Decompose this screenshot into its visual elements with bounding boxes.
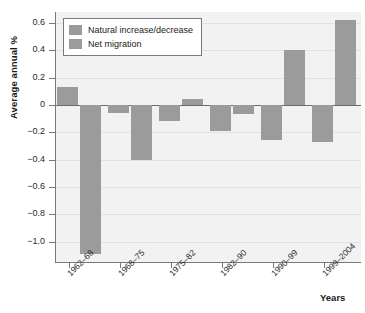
gridline [56,214,361,215]
bar [131,105,152,160]
gridline [56,242,361,243]
legend-swatch-migration [69,39,82,49]
bar [80,105,101,254]
bar [284,50,305,105]
gridline [56,160,361,161]
bar [210,105,231,131]
y-tick-label: −0.6 [27,181,45,191]
bar [108,105,129,113]
y-tick-label: 0.6 [32,17,45,27]
bar [57,87,78,105]
y-tick [49,187,56,188]
bar [335,20,356,105]
y-tick [49,78,56,79]
y-tick [49,214,56,215]
y-tick-label: −0.4 [27,154,45,164]
chart-container: Average annual % Years 0.60.40.20−0.2−0.… [0,0,365,313]
y-tick [49,50,56,51]
y-tick-label: −0.8 [27,208,45,218]
bar [233,105,254,115]
y-tick-label: 0.2 [32,72,45,82]
legend-item-migration: Net migration [69,37,193,51]
y-tick [49,105,56,106]
y-tick-label: −1.0 [27,236,45,246]
legend-label-migration: Net migration [88,39,142,49]
y-tick-label: −0.2 [27,126,45,136]
gridline [56,78,361,79]
y-axis-title: Average annual % [8,13,19,143]
y-tick-label: 0.4 [32,44,45,54]
legend-swatch-natural [69,25,82,35]
bar [182,99,203,104]
legend-item-natural: Natural increase/decrease [69,23,193,37]
y-tick [49,160,56,161]
y-tick [49,23,56,24]
chart-legend: Natural increase/decrease Net migration [63,18,202,56]
legend-label-natural: Natural increase/decrease [88,25,193,35]
y-tick [49,242,56,243]
y-tick-label: 0 [40,99,45,109]
x-axis-line [56,262,361,263]
gridline [56,187,361,188]
x-axis-title: Years [320,292,345,303]
y-tick [49,132,56,133]
bar [261,105,282,141]
bar [312,105,333,142]
bar [159,105,180,121]
